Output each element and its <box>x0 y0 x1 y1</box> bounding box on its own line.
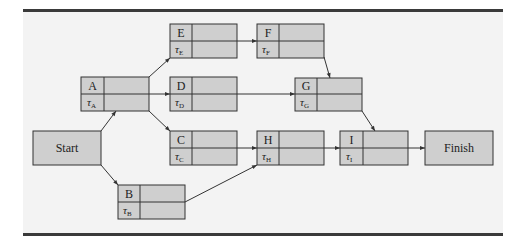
bottom-rule <box>23 233 503 236</box>
node-finish-label: Finish <box>444 141 474 155</box>
node-b: B τB <box>118 185 185 219</box>
node-h: H τH <box>257 131 324 165</box>
node-d: D τD <box>170 77 237 111</box>
node-c-label: C <box>177 133 185 147</box>
node-e-label: E <box>177 26 184 40</box>
node-b-label: B <box>125 187 133 201</box>
node-d-label: D <box>177 79 186 93</box>
node-a-label: A <box>88 79 97 93</box>
node-g: G τG <box>295 78 362 111</box>
top-rule <box>23 9 503 12</box>
node-start-label: Start <box>56 141 79 155</box>
node-e: E τE <box>170 24 237 58</box>
node-g-label: G <box>302 79 311 93</box>
node-f: F τF <box>257 24 324 58</box>
node-i-label: I <box>350 133 354 147</box>
node-c: C τC <box>170 131 237 165</box>
node-a: A τA <box>81 77 149 111</box>
network-diagram: Start Finish A τA B τB C τC D τD <box>0 0 526 244</box>
node-i: I τI <box>340 131 408 165</box>
node-f-label: F <box>265 26 272 40</box>
node-h-label: H <box>264 133 273 147</box>
node-finish: Finish <box>425 131 493 165</box>
node-start: Start <box>33 131 101 165</box>
